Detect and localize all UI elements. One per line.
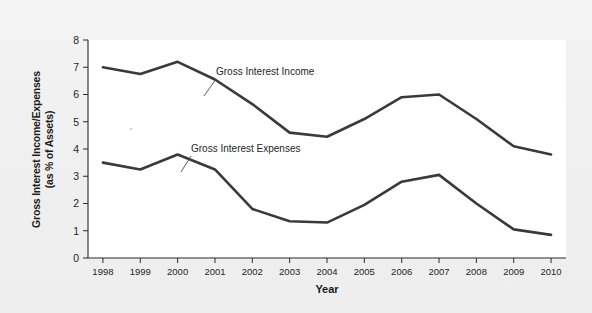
x-axis-ticks: 1998199920002001200220032004200520062007… (92, 258, 561, 277)
y-tick-label: 4 (73, 143, 79, 155)
axis-frame (88, 40, 566, 258)
x-tick-label: 2006 (391, 266, 412, 277)
x-tick-label: 2008 (466, 266, 487, 277)
data-series-group (103, 62, 551, 235)
series-line-gross-interest-income (103, 62, 551, 155)
x-tick-label: 2001 (204, 266, 225, 277)
annotation-label: Gross Interest Expenses (191, 143, 301, 154)
chart-svg: 012345678 199819992000200120022003200420… (0, 0, 592, 313)
x-tick-label: 2007 (428, 266, 449, 277)
x-tick-label: 2004 (316, 266, 337, 277)
x-tick-label: 2010 (540, 266, 561, 277)
y-tick-label: 3 (73, 170, 79, 182)
x-tick-label: 2000 (167, 266, 188, 277)
x-tick-label: 2005 (354, 266, 375, 277)
y-tick-label: 5 (73, 116, 79, 128)
x-tick-label: 2003 (279, 266, 300, 277)
y-tick-label: 6 (73, 88, 79, 100)
y-axis-ticks: 012345678 (73, 34, 88, 264)
y-tick-label: 8 (73, 34, 79, 46)
annotation-leader-line (204, 79, 216, 96)
x-tick-label: 2009 (503, 266, 524, 277)
y-tick-label: 2 (73, 197, 79, 209)
x-tick-label: 1998 (92, 266, 113, 277)
y-tick-label: 1 (73, 225, 79, 237)
y-tick-label: 7 (73, 61, 79, 73)
chart-figure: Gross Interest Income/Expenses (as % of … (0, 0, 592, 313)
series-line-gross-interest-expenses (103, 154, 551, 234)
x-tick-label: 1999 (130, 266, 151, 277)
y-tick-label: 0 (73, 252, 79, 264)
annotation-label: Gross Interest Income (216, 66, 315, 77)
x-tick-label: 2002 (242, 266, 263, 277)
paper-speck (130, 128, 132, 130)
annotation-group: Gross Interest IncomeGross Interest Expe… (181, 66, 315, 172)
